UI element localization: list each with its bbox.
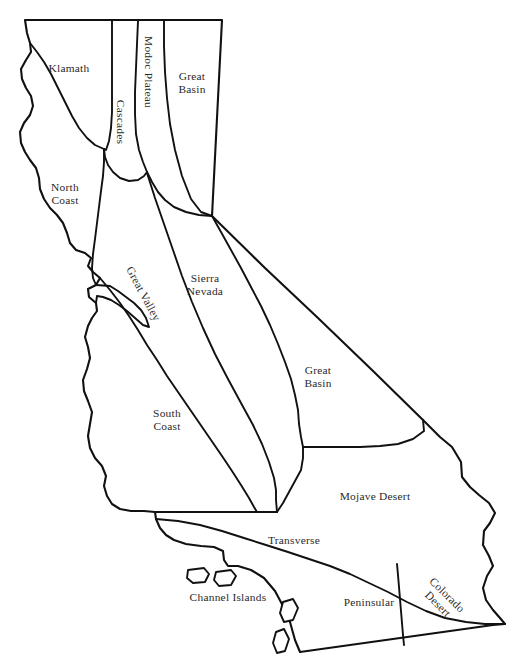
region-label-north-coast: North Coast — [51, 181, 79, 208]
region-label-cascades: Cascades — [113, 100, 126, 144]
region-label-sierra-nevada: Sierra Nevada — [187, 272, 223, 299]
region-label-south-coast: South Coast — [153, 407, 181, 434]
island-shape-2 — [214, 570, 236, 586]
island-shape-4 — [273, 629, 289, 653]
region-label-channel-islands: Channel Islands — [190, 591, 267, 604]
island-shape-1 — [187, 568, 209, 583]
region-label-transverse: Transverse — [268, 534, 320, 547]
region-label-modoc-plateau: Modoc Plateau — [141, 36, 154, 108]
california-state-outline — [20, 20, 505, 652]
region-label-great-basin-north: Great Basin — [178, 70, 205, 97]
region-label-great-basin-south: Great Basin — [304, 364, 331, 391]
region-label-mojave-desert: Mojave Desert — [340, 490, 411, 503]
region-label-peninsular: Peninsular — [344, 596, 395, 609]
map-svg — [0, 0, 515, 663]
region-label-klamath: Klamath — [49, 62, 90, 75]
california-province-map: Klamath Cascades Modoc Plateau Great Bas… — [0, 0, 515, 663]
